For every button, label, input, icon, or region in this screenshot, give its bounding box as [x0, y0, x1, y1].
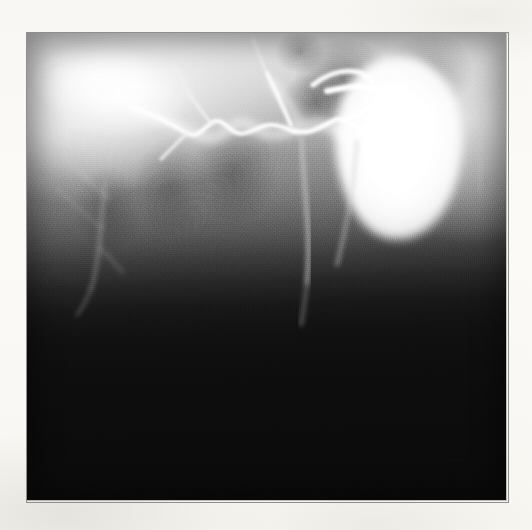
- duct-branch-left-upper: [173, 63, 211, 123]
- duct-descending-right: [337, 141, 357, 265]
- radiograph-caption: [0, 0, 1, 1]
- duct-branch-superior: [253, 39, 291, 125]
- duct-tree-overlay: [27, 33, 506, 500]
- duct-hook-upper-right: [313, 71, 373, 85]
- page-root: Grayscale radiograph showing branching b…: [0, 0, 532, 530]
- cystic-duct: [327, 86, 389, 119]
- common-bile-duct: [301, 137, 309, 325]
- duct-branch-left-descending: [161, 133, 187, 159]
- radiograph-image: [27, 33, 506, 500]
- radiograph-alt-text: Grayscale radiograph showing branching b…: [0, 0, 1, 1]
- duct-glow-group: [139, 83, 379, 145]
- duct-peripheral-left: [77, 183, 123, 315]
- parenchyma-right-edge: [479, 73, 482, 189]
